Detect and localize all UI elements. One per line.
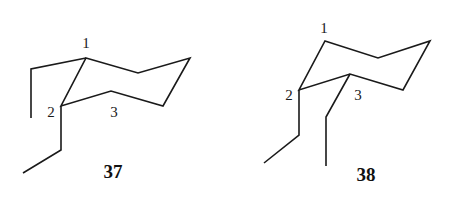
atom-label-1: 1 [82, 35, 90, 51]
substituent-c2 [264, 90, 299, 163]
structure-38: 1 2 3 38 [264, 20, 430, 185]
atom-label-2: 2 [285, 87, 293, 103]
atom-label-3: 3 [110, 104, 118, 120]
atom-label-1: 1 [320, 20, 328, 36]
substituent-c3 [326, 74, 350, 166]
cyclohexane-ring [299, 41, 430, 90]
compound-number-label: 37 [104, 161, 124, 182]
cyclohexane-ring [61, 58, 190, 106]
atom-label-2: 2 [47, 104, 55, 120]
substituent-c1 [31, 58, 86, 118]
compound-number-label: 38 [357, 164, 376, 185]
substituent-c2 [23, 106, 61, 173]
structure-37: 1 2 3 37 [23, 35, 190, 182]
chair-conformation-figure: 1 2 3 37 1 2 3 38 [0, 0, 450, 203]
atom-label-3: 3 [354, 87, 362, 103]
